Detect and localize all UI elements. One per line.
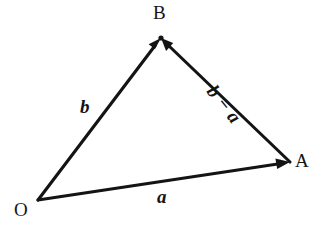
point-label-a: A — [295, 151, 309, 170]
vector-label-a: a — [157, 187, 167, 206]
point-label-b: B — [153, 3, 166, 22]
vertex-dot-b — [158, 35, 163, 40]
vector-arrow-b — [38, 38, 161, 200]
point-label-o: O — [14, 200, 28, 219]
vector-b-shaft — [38, 45, 156, 200]
vector-label-b: b — [80, 97, 90, 116]
vector-diagram: O B A b a b − a — [0, 0, 325, 227]
